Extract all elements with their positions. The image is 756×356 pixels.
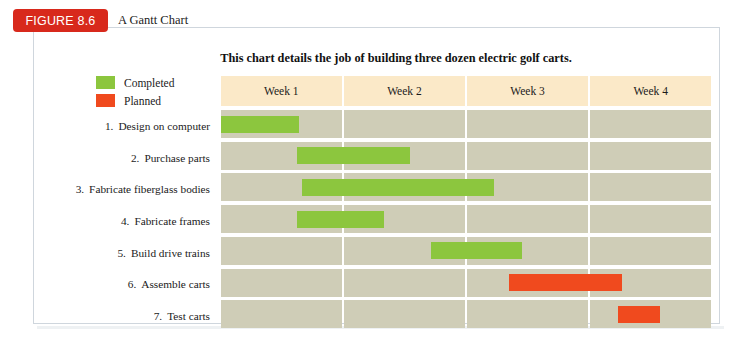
gantt-cell xyxy=(467,205,588,233)
legend-swatch-completed xyxy=(96,76,115,89)
task-row: 4.Fabricate frames xyxy=(40,205,220,237)
legend-item: Planned xyxy=(96,92,216,109)
gantt-cell xyxy=(344,205,465,233)
gantt-cell xyxy=(467,269,588,297)
task-label: Build drive trains xyxy=(131,247,210,259)
task-label: Fabricate fiberglass bodies xyxy=(89,183,210,195)
gantt-row xyxy=(221,142,711,170)
gantt-cell xyxy=(344,300,465,328)
legend-item: Completed xyxy=(96,74,216,91)
gantt-row xyxy=(221,300,711,328)
task-label: Design on computer xyxy=(118,120,210,132)
task-row: 6.Assemble carts xyxy=(40,268,220,300)
task-label: Assemble carts xyxy=(141,278,210,290)
week-header-cell: Week 4 xyxy=(590,76,711,106)
gantt-cell xyxy=(221,300,342,328)
gantt-grid-body xyxy=(221,110,711,332)
gantt-cell xyxy=(221,205,342,233)
gantt-cell xyxy=(590,237,711,265)
gantt-cell xyxy=(344,269,465,297)
task-row: 7.Test carts xyxy=(40,300,220,332)
gantt-cell xyxy=(344,173,465,201)
gantt-cell xyxy=(467,300,588,328)
task-number: 1. xyxy=(105,120,113,132)
figure-root: FIGURE 8.6 A Gantt Chart This chart deta… xyxy=(0,0,756,356)
gantt-cell xyxy=(344,142,465,170)
task-label: Test carts xyxy=(167,310,210,322)
gantt-cell xyxy=(221,173,342,201)
task-row: 1.Design on computer xyxy=(40,110,220,142)
legend-item-label: Planned xyxy=(124,95,161,107)
gantt-grid: Week 1Week 2Week 3Week 4 xyxy=(221,76,711,332)
task-label: Purchase parts xyxy=(144,152,210,164)
gantt-cell xyxy=(221,142,342,170)
gantt-row xyxy=(221,269,711,297)
task-number: 6. xyxy=(128,278,136,290)
task-number: 7. xyxy=(154,310,162,322)
gantt-cell xyxy=(467,173,588,201)
task-row: 3.Fabricate fiberglass bodies xyxy=(40,173,220,205)
gantt-cell xyxy=(590,300,711,328)
gantt-cell xyxy=(344,237,465,265)
task-number: 3. xyxy=(76,183,84,195)
gantt-cell xyxy=(467,110,588,138)
week-header-cell: Week 3 xyxy=(467,76,588,106)
legend-swatch-planned xyxy=(96,94,115,107)
figure-caption: A Gantt Chart xyxy=(118,13,188,28)
week-header-label: Week 1 xyxy=(264,85,299,97)
week-header-label: Week 4 xyxy=(633,85,668,97)
week-header-label: Week 2 xyxy=(387,85,422,97)
week-header-cell: Week 2 xyxy=(344,76,465,106)
gantt-row xyxy=(221,110,711,138)
gantt-cell xyxy=(467,142,588,170)
gantt-cell xyxy=(221,110,342,138)
gantt-cell xyxy=(467,237,588,265)
task-number: 2. xyxy=(131,152,139,164)
task-label-column: 1.Design on computer2.Purchase parts3.Fa… xyxy=(40,110,220,332)
gantt-cell xyxy=(590,269,711,297)
week-header-label: Week 3 xyxy=(510,85,545,97)
gantt-cell xyxy=(590,110,711,138)
gantt-cell xyxy=(590,142,711,170)
task-number: 5. xyxy=(117,247,125,259)
gantt-row xyxy=(221,205,711,233)
gantt-cell xyxy=(590,173,711,201)
gantt-cell xyxy=(344,110,465,138)
legend-item-label: Completed xyxy=(124,77,174,89)
task-row: 5.Build drive trains xyxy=(40,237,220,269)
gantt-week-header: Week 1Week 2Week 3Week 4 xyxy=(221,76,711,106)
week-header-cell: Week 1 xyxy=(221,76,342,106)
gantt-row xyxy=(221,173,711,201)
gantt-row xyxy=(221,237,711,265)
chart-legend: CompletedPlanned xyxy=(96,74,216,110)
figure-tag: FIGURE 8.6 xyxy=(13,9,108,32)
task-label: Fabricate frames xyxy=(134,215,210,227)
task-row: 2.Purchase parts xyxy=(40,142,220,174)
figure-tag-label: FIGURE 8.6 xyxy=(25,14,95,28)
chart-title: This chart details the job of building t… xyxy=(0,51,756,66)
task-number: 4. xyxy=(121,215,129,227)
gantt-cell xyxy=(221,237,342,265)
gantt-cell xyxy=(221,269,342,297)
gantt-cell xyxy=(590,205,711,233)
